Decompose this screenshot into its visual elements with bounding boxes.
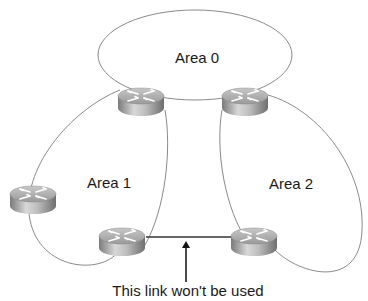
area-2-label: Area 2 bbox=[269, 175, 313, 192]
router-icon bbox=[222, 88, 268, 116]
area-0-label: Area 0 bbox=[175, 49, 219, 66]
router-icon bbox=[231, 228, 277, 256]
router-icon bbox=[10, 186, 56, 214]
router-icon bbox=[118, 88, 164, 116]
annotation-caption: This link won't be used bbox=[112, 282, 263, 299]
arrow-up-icon bbox=[182, 241, 190, 282]
router-icon bbox=[99, 228, 145, 256]
ospf-area-diagram: Area 0 Area 1 Area 2 This link won't be … bbox=[0, 0, 368, 301]
area-1-label: Area 1 bbox=[87, 174, 131, 191]
